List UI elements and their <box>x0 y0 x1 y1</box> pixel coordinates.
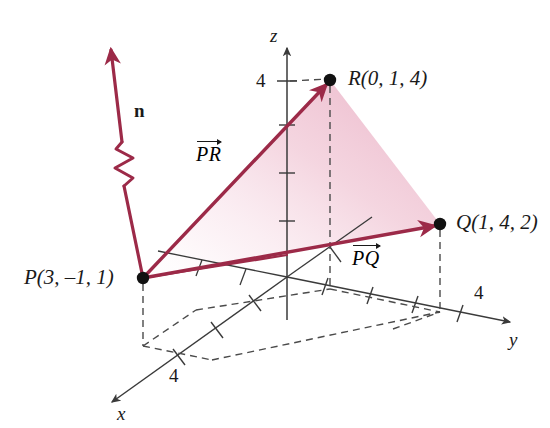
vector-PQ-overarrow-icon <box>353 245 380 246</box>
vector-diagram-figure: P(3, –1, 1) R(0, 1, 4) Q(1, 4, 2) z y x … <box>0 0 550 428</box>
vector-n-lower <box>124 186 143 278</box>
vector-n-upper <box>111 50 122 142</box>
y-tick-3 <box>412 296 418 313</box>
dash-floor-back-to-R <box>196 289 330 310</box>
plane-pqr-shaded-region <box>143 80 440 278</box>
z-axis-tick-label-4: 4 <box>256 71 266 90</box>
vector-PR-overarrow-icon <box>197 141 221 142</box>
vector-label-n: n <box>134 101 145 120</box>
vector-label-PR: PR <box>196 141 221 166</box>
x-axis <box>112 277 287 402</box>
point-label-R: R(0, 1, 4) <box>348 68 427 89</box>
axis-label-x: x <box>117 404 125 423</box>
y-tick-1 <box>322 278 328 295</box>
axis-label-z: z <box>270 26 277 45</box>
y-tick-4 <box>457 305 463 322</box>
dash-floor-P-back <box>143 310 196 346</box>
axis-label-y: y <box>509 330 517 349</box>
y-tick-2 <box>367 287 373 304</box>
x-axis-tick-label-4: 4 <box>169 366 179 385</box>
dash-floor-R-to-Q <box>330 289 440 312</box>
y-axis-tick-label-4: 4 <box>474 283 484 302</box>
dash-floor-front-to-Q <box>212 312 440 360</box>
vector-label-PQ: PQ <box>352 245 380 270</box>
point-label-P: P(3, –1, 1) <box>24 267 114 288</box>
point-label-Q: Q(1, 4, 2) <box>456 212 538 233</box>
point-Q-dot <box>434 218 446 230</box>
dash-floor-P-to-front <box>143 346 212 360</box>
point-P-dot <box>137 272 149 284</box>
point-R-dot <box>324 74 336 86</box>
dash-z4-to-R <box>290 79 327 81</box>
neg-x-tick-1 <box>330 247 341 262</box>
vector-n-zigzag-break <box>115 142 133 186</box>
neg-y-tick-1 <box>240 269 246 285</box>
